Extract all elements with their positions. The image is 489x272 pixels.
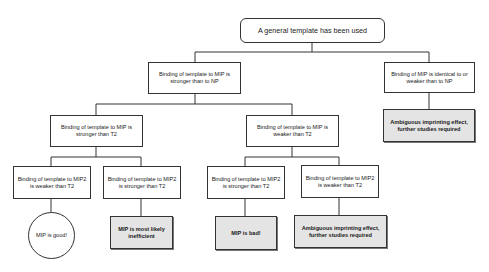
node-mip2-weaker-than-t2-b: Binding of template to MIP2 is weaker th… [301,165,379,198]
outcome-ambiguous-left: Ambiguous imprinting effect, further stu… [294,215,387,248]
node-mip2-stronger-than-t2-a: Binding of template to MIP2 is stronger … [103,166,181,199]
root-node: A general template has been used [240,18,385,43]
outcome-label: MIP is bad! [231,230,260,237]
node-label: Binding of MIP is identical to or weaker… [388,71,471,85]
outcome-label: Ambiguous imprinting effect, further stu… [387,119,471,133]
node-label: Binding of template to MIP2 is stronger … [211,176,281,190]
outcome-ambiguous-right: Ambiguous imprinting effect, further stu… [383,109,475,142]
node-label: Binding of template to MIP is weaker tha… [250,124,335,138]
node-mip-stronger-than-t2: Binding of template to MIP is stronger t… [50,115,143,147]
node-label: Binding of template to MIP is stronger t… [54,124,139,138]
node-label: Binding of template to MIP2 is stronger … [107,176,177,190]
root-label: A general template has been used [258,26,367,35]
outcome-label: MIP is most likely inefficient [114,226,169,240]
node-mip2-stronger-than-t2-b: Binding of template to MIP2 is stronger … [207,166,285,199]
outcome-mip-likely-inefficient: MIP is most likely inefficient [110,216,173,249]
outcome-label: MIP is good! [36,232,67,239]
node-mip-identical-or-weaker-than-np: Binding of MIP is identical to or weaker… [384,62,475,93]
node-mip-weaker-than-t2: Binding of template to MIP is weaker tha… [246,115,339,147]
node-mip-stronger-than-np: Binding of template to MIP is stronger t… [148,62,241,94]
node-label: Binding of template to MIP2 is weaker th… [17,176,87,190]
outcome-mip-good: MIP is good! [28,212,75,259]
outcome-label: Ambiguous imprinting effect, further stu… [298,225,383,239]
node-label: Binding of template to MIP is stronger t… [152,71,237,85]
decision-tree-diagram: A general template has been used Binding… [0,0,489,272]
node-label: Binding of template to MIP2 is weaker th… [305,175,375,189]
node-mip2-weaker-than-t2-a: Binding of template to MIP2 is weaker th… [13,166,91,199]
outcome-mip-bad: MIP is bad! [215,216,277,250]
